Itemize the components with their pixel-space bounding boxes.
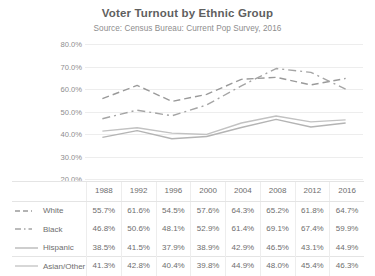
table-cell: 39.8% bbox=[190, 257, 225, 276]
series-label: Asian/Other bbox=[43, 262, 85, 271]
table-header-row: 1988 1992 1996 2000 2004 2008 2012 2016 bbox=[12, 182, 364, 202]
legend-item-hispanic: Hispanic bbox=[12, 243, 86, 253]
table-row: White 55.7% 61.6% 54.5% 57.6% 64.3% 65.2… bbox=[12, 202, 364, 221]
table-cell: 59.9% bbox=[329, 220, 364, 239]
table-cell: 54.5% bbox=[156, 202, 191, 221]
table-row: Asian/Other 41.3% 42.8% 40.4% 39.8% 44.9… bbox=[12, 257, 364, 276]
legend-line-dashed-icon bbox=[14, 206, 40, 216]
table-cell: 61.4% bbox=[225, 220, 260, 239]
table-cell: 65.2% bbox=[260, 202, 295, 221]
table-cell: 40.4% bbox=[156, 257, 191, 276]
table-cell: 61.8% bbox=[295, 202, 330, 221]
legend-line-solid-icon bbox=[14, 261, 40, 271]
table-cell: 41.5% bbox=[121, 239, 156, 258]
legend-line-dash-dot-icon bbox=[14, 224, 40, 234]
series-label: White bbox=[43, 206, 63, 215]
series-label: Black bbox=[43, 225, 63, 234]
table-cell: 46.8% bbox=[86, 220, 121, 239]
table-header-cell: 2008 bbox=[260, 182, 295, 201]
chart-title: Voter Turnout by Ethnic Group bbox=[0, 7, 375, 19]
y-axis-tick-label: 70.0% bbox=[60, 62, 82, 71]
plot-area bbox=[85, 44, 363, 179]
y-axis-tick-label: 40.0% bbox=[60, 130, 82, 139]
table-cell: 41.3% bbox=[86, 257, 121, 276]
table-cell: 48.0% bbox=[260, 257, 295, 276]
gridline bbox=[85, 179, 363, 180]
table-cell: 38.5% bbox=[86, 239, 121, 258]
table-cell: 45.4% bbox=[295, 257, 330, 276]
table-header-cell: 1988 bbox=[86, 182, 121, 201]
series-label: Hispanic bbox=[43, 243, 74, 252]
table-header-cell: 2000 bbox=[190, 182, 225, 201]
chart-subtitle: Source: Census Bureau: Current Pop Surve… bbox=[0, 24, 375, 33]
table-cell: 69.1% bbox=[260, 220, 295, 239]
table-header-cell: 2012 bbox=[295, 182, 330, 201]
table-cell: 44.9% bbox=[225, 257, 260, 276]
table-cell: 42.9% bbox=[225, 239, 260, 258]
series-line-white bbox=[102, 77, 345, 101]
y-axis-labels: 80.0%70.0%60.0%50.0%40.0%30.0%20.0% bbox=[28, 44, 82, 179]
y-axis-tick-label: 30.0% bbox=[60, 152, 82, 161]
table-row: Black 46.8% 50.6% 48.1% 52.9% 61.4% 69.1… bbox=[12, 220, 364, 239]
table-cell: 46.5% bbox=[260, 239, 295, 258]
table-header-cell: 2004 bbox=[225, 182, 260, 201]
series-line-black bbox=[102, 69, 345, 119]
legend-item-asian-other: Asian/Other bbox=[12, 261, 86, 271]
table-row: Hispanic 38.5% 41.5% 37.9% 38.9% 42.9% 4… bbox=[12, 239, 364, 258]
table-header-cell: 2016 bbox=[329, 182, 364, 201]
data-table: 1988 1992 1996 2000 2004 2008 2012 2016 … bbox=[12, 181, 364, 257]
legend-item-white: White bbox=[12, 206, 86, 216]
y-axis-tick-label: 60.0% bbox=[60, 85, 82, 94]
table-cell: 61.6% bbox=[121, 202, 156, 221]
legend-line-solid-icon bbox=[14, 243, 40, 253]
table-cell: 52.9% bbox=[190, 220, 225, 239]
table-cell: 37.9% bbox=[156, 239, 191, 258]
table-cell: 64.7% bbox=[329, 202, 364, 221]
table-cell: 55.7% bbox=[86, 202, 121, 221]
table-cell: 50.6% bbox=[121, 220, 156, 239]
table-cell: 44.9% bbox=[329, 239, 364, 258]
table-cell: 46.3% bbox=[329, 257, 364, 276]
y-axis-tick-label: 80.0% bbox=[60, 40, 82, 49]
table-header-cell: 1996 bbox=[156, 182, 191, 201]
series-lines bbox=[85, 44, 363, 179]
table-cell: 57.6% bbox=[190, 202, 225, 221]
table-cell: 43.1% bbox=[295, 239, 330, 258]
table-cell: 67.4% bbox=[295, 220, 330, 239]
y-axis-tick-label: 50.0% bbox=[60, 107, 82, 116]
table-header-cell: 1992 bbox=[121, 182, 156, 201]
legend-item-black: Black bbox=[12, 224, 86, 234]
table-cell: 42.8% bbox=[121, 257, 156, 276]
table-cell: 64.3% bbox=[225, 202, 260, 221]
table-cell: 38.9% bbox=[190, 239, 225, 258]
table-cell: 48.1% bbox=[156, 220, 191, 239]
